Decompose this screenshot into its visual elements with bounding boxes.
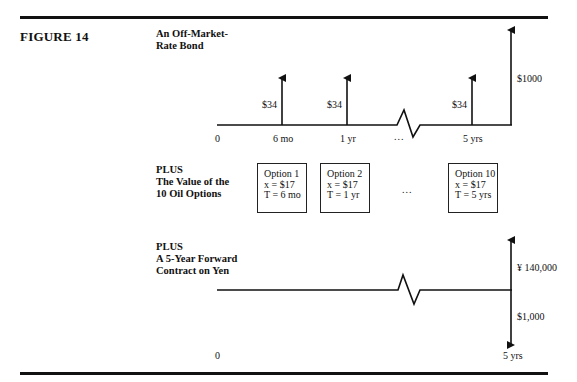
forward-title: PLUS A 5-Year Forward Contract on Yen — [156, 241, 237, 277]
forward-receive-label: ¥ 140,000 — [517, 262, 557, 273]
bond-tick-6mo: 6 mo — [273, 133, 293, 144]
option-maturity: T = 5 yrs — [455, 190, 497, 201]
bond-tick-0: 0 — [215, 133, 220, 144]
forward-tick-5yrs: 5 yrs — [503, 350, 523, 361]
options-title-line3: 10 Oil Options — [156, 188, 229, 200]
option-name: Option 1 — [264, 169, 306, 180]
options-ellipsis: ... — [402, 184, 413, 195]
bond-timeline — [217, 30, 512, 137]
bond-tick-ellipsis: ... — [394, 131, 405, 142]
option-maturity: T = 6 mo — [264, 190, 306, 201]
options-title-line1: PLUS — [156, 164, 229, 176]
option-maturity: T = 1 yr — [327, 190, 369, 201]
bond-tick-5yrs: 5 yrs — [463, 133, 483, 144]
options-title-line2: The Value of the — [156, 176, 229, 188]
bond-coupon-1yr: $34 — [327, 99, 342, 110]
bond-tick-1yr: 1 yr — [340, 133, 356, 144]
option-box-10: Option 10 x = $17 T = 5 yrs — [448, 163, 498, 213]
forward-title-line2: A 5-Year Forward — [156, 253, 237, 265]
forward-timeline — [217, 240, 512, 345]
bond-coupon-5yr: $34 — [452, 99, 467, 110]
bond-coupon-6mo: $34 — [262, 99, 277, 110]
option-box-2: Option 2 x = $17 T = 1 yr — [320, 163, 370, 213]
forward-title-line3: Contract on Yen — [156, 265, 237, 277]
options-title: PLUS The Value of the 10 Oil Options — [156, 164, 229, 200]
option-name: Option 10 — [455, 169, 497, 180]
forward-tick-0: 0 — [215, 350, 220, 361]
forward-pay-label: $1,000 — [517, 311, 545, 322]
option-box-1: Option 1 x = $17 T = 6 mo — [257, 163, 307, 213]
forward-title-line1: PLUS — [156, 241, 237, 253]
option-name: Option 2 — [327, 169, 369, 180]
bond-principal: $1000 — [517, 73, 542, 84]
